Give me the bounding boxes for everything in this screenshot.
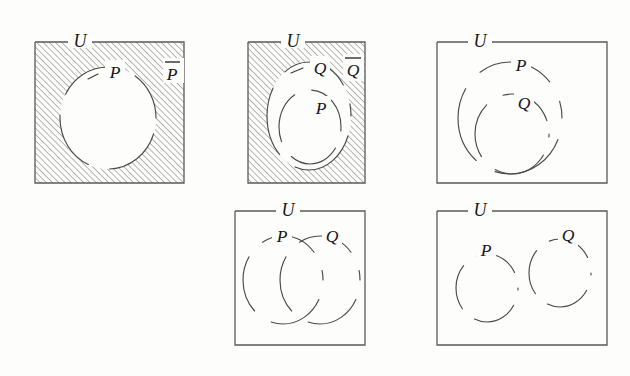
- set-circle-q: [280, 236, 360, 324]
- set-circle-q: [267, 62, 351, 170]
- panel-complement-q-with-p-inside: U Q P Q: [248, 31, 365, 183]
- universe-border: [437, 211, 607, 345]
- universe-label: U: [474, 200, 488, 220]
- set-p-label: P: [315, 98, 327, 118]
- set-circle-q: [475, 94, 549, 174]
- panel-p-overlaps-q: U P Q: [235, 200, 365, 345]
- set-q-label: Q: [326, 226, 339, 246]
- set-circle-p: [243, 236, 323, 324]
- universe-label: U: [282, 200, 296, 220]
- universe-border: [235, 211, 365, 345]
- venn-diagram-figure: U P P U Q P Q: [0, 0, 630, 376]
- set-circle-p: [456, 254, 518, 322]
- universe-label: U: [74, 31, 88, 51]
- complement-q-label: Q: [347, 60, 360, 80]
- set-p-label: P: [276, 226, 288, 246]
- panel-complement-p: U P P: [35, 31, 184, 183]
- set-q-label: Q: [518, 93, 531, 113]
- universe-label: U: [287, 31, 301, 51]
- panel-q-subset-p: U P Q: [437, 31, 607, 183]
- set-p-label: P: [515, 55, 527, 75]
- set-p-label: P: [480, 240, 492, 260]
- set-circle-p: [60, 67, 156, 169]
- set-q-label: Q: [314, 58, 327, 78]
- figure-canvas: U P P U Q P Q: [0, 0, 630, 376]
- complement-p-label: P: [166, 64, 178, 84]
- set-p-label: P: [109, 62, 121, 82]
- set-q-label: Q: [562, 225, 575, 245]
- panel-p-disjoint-q: U P Q: [437, 200, 607, 345]
- set-circle-q: [529, 239, 591, 307]
- universe-label: U: [474, 31, 488, 51]
